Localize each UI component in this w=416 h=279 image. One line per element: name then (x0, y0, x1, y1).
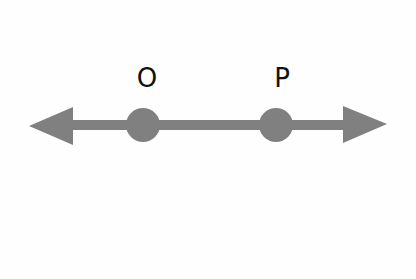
right-arrowhead-icon (343, 106, 387, 143)
point-p-label: P (274, 63, 290, 93)
line-segment (70, 120, 346, 130)
point-o-label: O (137, 63, 157, 93)
diagram-canvas: O P (0, 0, 416, 279)
number-line-figure: O P (0, 0, 416, 279)
left-arrowhead-icon (29, 107, 73, 145)
point-o (126, 108, 160, 142)
point-p (259, 108, 293, 142)
